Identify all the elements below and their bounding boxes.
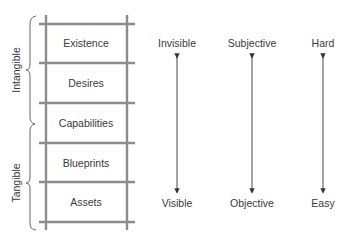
scale-bottom-visible: Visible (162, 197, 193, 209)
scale-bottom-easy: Easy (311, 197, 334, 209)
scale-top-hard: Hard (312, 37, 335, 49)
level-capabilities: Capabilities (59, 117, 113, 129)
level-desires: Desires (68, 77, 104, 89)
level-blueprints: Blueprints (63, 157, 110, 169)
level-existence: Existence (63, 37, 109, 49)
intangible-brace (26, 16, 36, 124)
scale-top-subjective: Subjective (228, 37, 276, 49)
tangible-brace (26, 124, 36, 230)
group-label-intangible: Intangible (10, 47, 22, 93)
group-label-tangible: Tangible (10, 163, 22, 202)
level-assets: Assets (70, 196, 102, 208)
scale-top-invisible: Invisible (158, 37, 196, 49)
scale-bottom-objective: Objective (230, 197, 274, 209)
